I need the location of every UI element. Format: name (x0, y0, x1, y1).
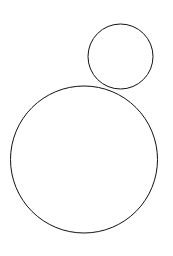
figure-canvas (0, 0, 173, 256)
two-circles-figure (0, 0, 173, 256)
